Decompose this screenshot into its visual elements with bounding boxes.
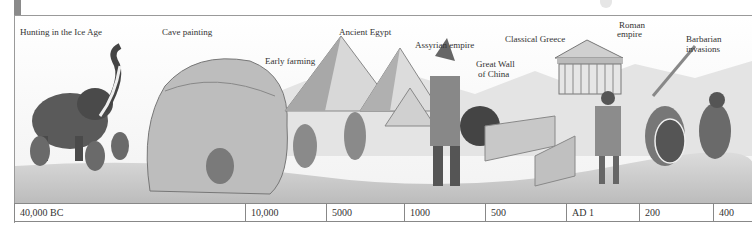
tick-40000bc: 40,000 BC — [15, 204, 245, 221]
caption-roman-empire-line2: empire — [617, 29, 642, 39]
page-edge-bar — [14, 0, 21, 16]
tick-5000: 5000 — [326, 204, 404, 221]
caption-barbarian-line1: Barbarian — [686, 34, 721, 44]
timeline-bar: 40,000 BC 10,000 5000 1000 500 AD 1 200 … — [14, 203, 752, 222]
tick-200: 200 — [639, 204, 713, 221]
caption-ice-age: Hunting in the Ice Age — [20, 27, 102, 37]
illustration-art — [15, 16, 752, 203]
page-top-mark — [600, 0, 612, 8]
caption-great-wall-line2: of China — [478, 69, 509, 79]
tick-1000: 1000 — [404, 204, 485, 221]
tick-400: 400 — [713, 204, 752, 221]
caption-great-wall-line1: Great Wall — [476, 59, 515, 69]
tick-ad1: AD 1 — [566, 204, 639, 221]
caption-cave-painting: Cave painting — [162, 27, 212, 37]
history-illustration: Hunting in the Ice Age Cave painting Ear… — [15, 16, 752, 203]
tick-10000: 10,000 — [245, 204, 326, 221]
tick-500: 500 — [485, 204, 566, 221]
caption-barbarian-line2: invasions — [686, 44, 720, 54]
caption-classical-greece: Classical Greece — [505, 34, 565, 44]
caption-ancient-egypt: Ancient Egypt — [339, 27, 391, 37]
caption-early-farming: Early farming — [265, 56, 315, 66]
caption-assyrian-empire: Assyrian empire — [415, 40, 474, 50]
